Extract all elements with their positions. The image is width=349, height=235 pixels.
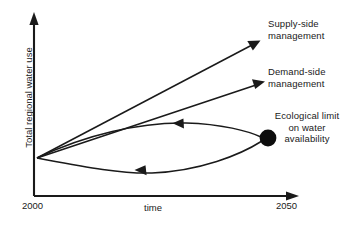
ecological-limit-label: Ecological limit on water availability: [266, 110, 348, 145]
demand-side-arrowhead: [252, 79, 265, 89]
demand-side-trajectory: [37, 79, 265, 158]
supply-side-trajectory: [37, 41, 261, 159]
supply-side-label: Supply-side management: [268, 18, 324, 41]
x-axis: [34, 191, 299, 200]
upper-convergence-curve: [37, 119, 261, 158]
supply-side-arrowhead: [247, 41, 260, 51]
x-axis-title: time: [144, 202, 162, 213]
demand-side-label: Demand-side management: [268, 66, 326, 89]
water-use-trajectory-figure: Supply-side management Demand-side manag…: [0, 0, 349, 235]
x-axis-tick-end: 2050: [276, 200, 297, 211]
x-axis-tick-start: 2000: [22, 200, 43, 211]
upper-curve-arrowhead: [173, 119, 185, 129]
y-axis-title: Total regional water use: [23, 18, 34, 178]
